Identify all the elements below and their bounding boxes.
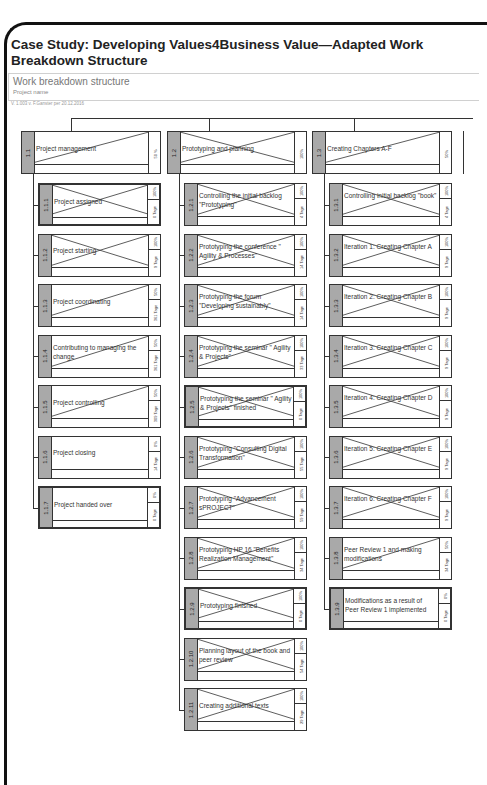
wbs-task-box[interactable]: 1.2.7Prototyping "Advancement sPROJECT"1… <box>184 486 307 529</box>
duration-value: 9 Tage <box>443 408 448 420</box>
duration-value: 9 Tage <box>152 256 157 268</box>
wbs-task-box[interactable]: 1.2.4Prototyping the seminar " Agility &… <box>184 335 307 378</box>
wbs-body: Iteration 1: Creating Chapter A <box>342 235 440 276</box>
next-column-edge <box>463 131 464 174</box>
duration-value: 4 Tage <box>443 206 448 218</box>
wbs-id: 1.3.1 <box>333 198 339 211</box>
wbs-body: Project starting <box>51 235 149 276</box>
wbs-task-box[interactable]: 1.2.1Controlling the initial backlog "Pr… <box>184 183 307 226</box>
wbs-status-cell: 100%9 Tage <box>439 285 451 326</box>
wbs-status-cell: 100%0 Tage <box>293 589 305 628</box>
wbs-task-box[interactable]: 1.3.7Iteration 6: Creating Chapter F100%… <box>329 486 452 529</box>
wbs-label: Iteration 2: Creating Chapter B <box>344 292 438 301</box>
wbs-status-cell: 100%0 Tage <box>147 185 159 224</box>
duration: 9 Tage <box>440 299 451 326</box>
wbs-task-box[interactable]: 1.1.3Project coordinating50%361 Tage <box>38 284 161 327</box>
progress-cross-icon <box>51 235 149 276</box>
wbs-label: Project coordinating <box>53 297 147 306</box>
wbs-label: Project management <box>36 144 147 153</box>
wbs-body: Prototyping "Advancement sPROJECT" <box>197 487 295 528</box>
wbs-task-box[interactable]: 1.2.9Prototyping finished100%0 Tage <box>184 587 307 630</box>
version-note: V. 1.003 v. F.Ganster per 20.12.2016 <box>11 101 84 106</box>
wbs-task-box[interactable]: 1.3.6Iteration 5: Creating Chapter E100%… <box>329 436 452 479</box>
wbs-label: Creating Chapters A-F <box>327 144 438 153</box>
wbs-status-cell: 100% <box>294 132 306 173</box>
wbs-id: 1.3.9 <box>334 602 340 615</box>
wbs-task-box[interactable]: 1.3.9Modifications as a result of Peer R… <box>329 587 452 630</box>
wbs-footer-divider <box>197 519 295 520</box>
duration-value: 0 Tage <box>442 610 447 622</box>
wbs-status-cell: 100%34 Tage <box>294 538 306 579</box>
duration: 9 Tage <box>440 501 451 528</box>
wbs-task-box[interactable]: 1.1.6Project closing0%14 Tage <box>38 436 161 479</box>
wbs-status-cell: 100%14 Tage <box>294 285 306 326</box>
percent-value: 100% <box>443 287 448 297</box>
percent-complete: 0% <box>149 437 160 452</box>
percent-value: 100% <box>152 236 157 246</box>
percent-value: 100% <box>298 489 303 499</box>
wbs-work-package[interactable]: 1.1Project management50 % <box>21 131 161 174</box>
wbs-label: Project controlling <box>53 398 147 407</box>
column-connector <box>354 118 355 131</box>
duration: 34 Tage <box>440 552 451 579</box>
wbs-task-box[interactable]: 1.1.2Project starting100%9 Tage <box>38 234 161 277</box>
duration: 14 Tage <box>295 249 306 276</box>
percent-value: 50 % <box>152 149 157 158</box>
wbs-footer-divider <box>198 419 294 420</box>
duration: 33 Tage <box>295 350 306 377</box>
duration: 0 Tage <box>294 603 305 628</box>
wbs-id: 1.2.1 <box>188 198 194 211</box>
wbs-header: Work breakdown structure Project name <box>8 73 479 101</box>
wbs-id: 1.2.4 <box>188 349 194 362</box>
percent-complete: 50% <box>440 538 451 553</box>
wbs-task-box[interactable]: 1.2.5Prototyping the seminar " Agility &… <box>184 385 307 428</box>
percent-value: 100% <box>298 148 303 158</box>
wbs-task-box[interactable]: 1.2.2Prototyping the conference " Agilit… <box>184 234 307 277</box>
wbs-task-box[interactable]: 1.2.8Prototyping HP 16 "Benefits Realiza… <box>184 537 307 580</box>
wbs-status-cell: 100%59 Tage <box>294 487 306 528</box>
wbs-task-box[interactable]: 1.2.3Prototyping the forum "Developing s… <box>184 284 307 327</box>
wbs-id: 1.2.2 <box>188 248 194 261</box>
wbs-status-cell: 100%55 Tage <box>294 437 306 478</box>
duration: 309 Tage <box>149 400 160 427</box>
wbs-task-box[interactable]: 1.1.7Project handed over0%0 Tage <box>38 486 161 529</box>
wbs-task-box[interactable]: 1.1.1Project assigned100%0 Tage <box>38 183 161 226</box>
wbs-body: Project closing <box>51 437 149 478</box>
wbs-label: Project handed over <box>54 500 146 509</box>
wbs-task-box[interactable]: 1.3.5Iteration 4: Creating Chapter D100%… <box>329 385 452 428</box>
progress-cross-icon <box>197 689 295 730</box>
wbs-footer-divider <box>343 621 439 622</box>
wbs-work-package[interactable]: 1.3Creating Chapters A-F50% <box>312 131 452 174</box>
wbs-id: 1.3.3 <box>333 299 339 312</box>
wbs-task-box[interactable]: 1.3.8Peer Review 1 and making modificati… <box>329 537 452 580</box>
wbs-label: Project closing <box>53 448 147 457</box>
wbs-task-box[interactable]: 1.2.11Creating additional texts100%29 Ta… <box>184 688 307 731</box>
duration-value: 9 Tage <box>443 256 448 268</box>
wbs-task-box[interactable]: 1.1.5Project controlling50%309 Tage <box>38 385 161 428</box>
wbs-body: Project management <box>34 132 149 173</box>
percent-complete: 100% <box>295 689 306 704</box>
duration-value: 14 Tage <box>298 305 303 319</box>
duration: 9 Tage <box>440 249 451 276</box>
wbs-task-box[interactable]: 1.3.1Controlling initial backlog "book"1… <box>329 183 452 226</box>
wbs-work-package[interactable]: 1.2Prototyping and planning100% <box>167 131 307 174</box>
percent-complete: 0% <box>439 589 450 604</box>
wbs-body: Iteration 2: Creating Chapter B <box>342 285 440 326</box>
wbs-task-box[interactable]: 1.3.4Iteration 3: Creating Chapter C100%… <box>329 335 452 378</box>
wbs-task-box[interactable]: 1.3.3Iteration 2: Creating Chapter B100%… <box>329 284 452 327</box>
wbs-label: Iteration 3: Creating Chapter C <box>344 343 438 352</box>
wbs-footer-divider <box>197 368 295 369</box>
wbs-task-box[interactable]: 1.2.6Prototyping "Consulting Digital Tra… <box>184 436 307 479</box>
top-connector <box>71 118 473 119</box>
wbs-id: 1.3.8 <box>333 551 339 564</box>
duration-value: 361 Tage <box>152 304 157 320</box>
wbs-status-cell: 100%54 Tage <box>294 639 306 680</box>
wbs-status-cell: 100%14 Tage <box>294 235 306 276</box>
duration-value: 54 Tage <box>298 659 303 673</box>
wbs-task-box[interactable]: 1.3.2Iteration 1: Creating Chapter A100%… <box>329 234 452 277</box>
progress-cross-icon <box>325 132 440 173</box>
wbs-footer-divider <box>197 721 295 722</box>
wbs-task-box[interactable]: 1.2.10Planning layout of the book and pe… <box>184 638 307 681</box>
wbs-task-box[interactable]: 1.1.4Contributing to managing the change… <box>38 335 161 378</box>
wbs-footer-divider <box>197 216 295 217</box>
